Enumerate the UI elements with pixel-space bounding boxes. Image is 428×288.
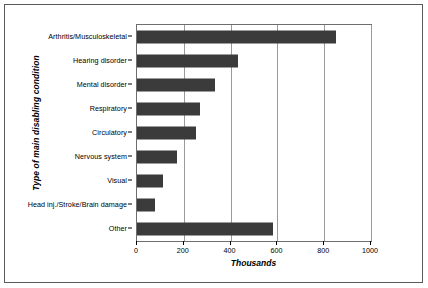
category-tick (128, 36, 132, 37)
bar (137, 175, 163, 188)
category-tick (128, 156, 132, 157)
x-axis-tick (276, 241, 277, 245)
bar (137, 31, 336, 44)
bar (137, 55, 238, 68)
category-label: Respiratory (90, 104, 127, 113)
x-axis-tick-label: 0 (134, 246, 138, 255)
category-label: Arthritis/Musculoskeletal (48, 32, 127, 41)
bar (137, 79, 215, 92)
x-axis-tick-label: 400 (224, 246, 236, 255)
category-label: Head inj./Stroke/Brain damage (28, 200, 127, 209)
bar-chart-figure: Type of main disabling condition Arthrit… (0, 0, 428, 288)
plot-area (136, 24, 372, 242)
category-tick (128, 228, 132, 229)
x-axis-tick (183, 241, 184, 245)
x-axis-tick (136, 241, 137, 245)
x-axis-tick (323, 241, 324, 245)
x-axis-tick (230, 241, 231, 245)
gridline (324, 25, 325, 241)
category-axis-labels: Arthritis/MusculoskeletalHearing disorde… (24, 24, 132, 240)
bar (137, 103, 200, 116)
x-axis-tick-label: 800 (317, 246, 329, 255)
category-label: Hearing disorder (73, 56, 127, 65)
gridline (277, 25, 278, 241)
x-axis-tick-label: 200 (177, 246, 189, 255)
bar (137, 151, 177, 164)
category-label: Circulatory (92, 128, 127, 137)
category-label: Nervous system (75, 152, 127, 161)
x-axis-title: Thousands (136, 258, 371, 268)
category-label: Mental disorder (77, 80, 127, 89)
x-axis-tick-label: 600 (270, 246, 282, 255)
x-axis-tick (370, 241, 371, 245)
bar (137, 223, 273, 236)
category-tick (128, 180, 132, 181)
category-label: Visual (107, 176, 127, 185)
category-tick (128, 204, 132, 205)
bar (137, 127, 196, 140)
gridline (371, 25, 372, 241)
category-tick (128, 132, 132, 133)
category-tick (128, 60, 132, 61)
category-tick (128, 84, 132, 85)
category-label: Other (109, 224, 127, 233)
category-tick (128, 108, 132, 109)
bar (137, 199, 155, 212)
x-axis-tick-label: 1000 (362, 246, 378, 255)
